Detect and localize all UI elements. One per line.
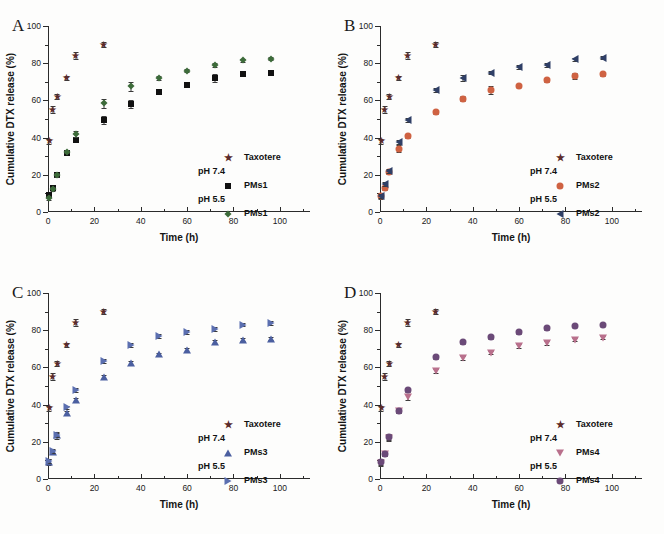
legend-ph55-series: PMs3: [198, 474, 281, 488]
legend-ph74-label: pH 7.4: [198, 165, 281, 179]
triangle-left-marker-glyph: [386, 167, 393, 175]
legend-ph-label: pH 7.4: [530, 434, 557, 443]
y-tick: [43, 100, 48, 101]
legend-label: Taxotere: [576, 153, 613, 162]
y-tick: [375, 367, 380, 368]
y-axis-title: Cumulative DTX release (%): [5, 320, 16, 452]
triangle-down-marker-glyph: [404, 394, 412, 401]
x-tick-label: 20: [90, 483, 99, 493]
y-tick-label: 0: [368, 207, 373, 217]
legend-ph74-label: pH 7.4: [198, 432, 281, 446]
star-marker-glyph: ★: [45, 403, 54, 413]
release-profile-figure: A020406080100020406080100★★★★★★Time (h)C…: [0, 0, 664, 534]
circle-marker-glyph: [386, 434, 393, 441]
circle-marker-glyph: [599, 321, 606, 328]
triangle-up-marker-glyph: [239, 336, 247, 343]
y-tick-minor: [45, 386, 48, 387]
x-tick-minor: [71, 209, 72, 212]
plot-area-b: 020406080100020406080100★★★★★★Time (h)Cu…: [380, 26, 642, 212]
legend-label: PMs3: [244, 448, 268, 457]
y-tick-minor: [45, 312, 48, 313]
triangle-left-marker-glyph: [381, 180, 388, 188]
triangle-left-marker-glyph: [395, 138, 402, 146]
y-tick-label: 100: [359, 21, 373, 31]
y-tick-label: 80: [364, 58, 373, 68]
x-tick: [94, 474, 95, 479]
y-tick-label: 0: [36, 207, 41, 217]
star-marker-glyph: ★: [385, 359, 394, 369]
square-marker-glyph: [128, 101, 134, 107]
panel-b: B020406080100020406080100★★★★★★Time (h)C…: [332, 0, 664, 267]
square-marker-glyph: [73, 137, 79, 143]
x-tick-minor: [496, 209, 497, 212]
error-bar-cap-bottom: [212, 82, 217, 83]
circle-marker-glyph: [543, 325, 550, 332]
square-marker-glyph: [156, 89, 162, 95]
star-marker-glyph: ★: [380, 105, 389, 115]
circle-marker-glyph: [381, 450, 388, 457]
triangle-right-marker-glyph: [267, 319, 274, 327]
circle-marker-glyph: [543, 76, 550, 83]
star-marker-glyph: ★: [556, 153, 565, 163]
triangle-up-marker-glyph: [183, 346, 191, 353]
legend-ph55-series: PMs2: [530, 207, 613, 221]
triangle-left-marker-glyph: [571, 55, 578, 63]
y-tick-minor: [377, 349, 380, 350]
y-tick-label: 20: [364, 170, 373, 180]
y-tick-label: 100: [27, 288, 41, 298]
error-bar-cap-bottom: [489, 94, 494, 95]
y-tick-minor: [45, 349, 48, 350]
legend-marker: [220, 208, 236, 220]
error-bar-cap-bottom: [129, 108, 134, 109]
x-tick: [187, 207, 188, 212]
triangle-right-marker-glyph: [211, 325, 218, 333]
star-marker-glyph: ★: [403, 51, 412, 61]
circle-marker-glyph: [557, 478, 564, 485]
y-tick-label: 100: [359, 288, 373, 298]
x-tick: [380, 474, 381, 479]
y-tick-label: 40: [364, 133, 373, 143]
y-tick-label: 100: [27, 21, 41, 31]
panel-letter-d: D: [344, 283, 357, 303]
x-tick-minor: [303, 209, 304, 212]
y-tick: [43, 63, 48, 64]
x-tick-minor: [403, 209, 404, 212]
x-tick-label: 0: [46, 483, 51, 493]
x-tick-label: 60: [182, 216, 191, 226]
triangle-up-marker-glyph: [224, 450, 232, 457]
legend-label: PMs1: [244, 209, 268, 218]
y-tick-label: 80: [364, 325, 373, 335]
square-marker-glyph: [101, 117, 107, 123]
y-tick-label: 40: [32, 400, 41, 410]
circle-marker-glyph: [516, 329, 523, 336]
y-tick-minor: [45, 82, 48, 83]
y-tick-minor: [377, 82, 380, 83]
star-marker-glyph: ★: [62, 73, 71, 83]
y-tick: [375, 100, 380, 101]
x-tick-label: 40: [136, 483, 145, 493]
x-tick-label: 0: [378, 216, 383, 226]
y-tick-minor: [45, 156, 48, 157]
x-tick-minor: [118, 476, 119, 479]
star-marker-glyph: ★: [48, 105, 57, 115]
legend-ph-label: pH 5.5: [198, 462, 225, 471]
star-marker-glyph: ★: [45, 136, 54, 146]
y-tick-minor: [377, 119, 380, 120]
y-tick-minor: [377, 386, 380, 387]
legend-d: ★TaxoterepH 7.4PMs4pH 5.5PMs4: [530, 418, 613, 488]
y-axis-title: Cumulative DTX release (%): [5, 53, 16, 185]
triangle-right-marker-glyph: [156, 332, 163, 340]
y-tick: [43, 330, 48, 331]
star-marker-glyph: ★: [62, 340, 71, 350]
legend-marker: [220, 180, 236, 192]
y-tick-label: 40: [32, 133, 41, 143]
x-tick-minor: [164, 476, 165, 479]
y-tick: [43, 367, 48, 368]
y-tick-minor: [377, 312, 380, 313]
y-tick-minor: [45, 423, 48, 424]
circle-marker-glyph: [432, 109, 439, 116]
x-axis-title: Time (h): [48, 232, 310, 243]
triangle-left-marker-glyph: [488, 69, 495, 77]
x-tick-label: 60: [514, 216, 523, 226]
triangle-right-marker-glyph: [72, 386, 79, 394]
